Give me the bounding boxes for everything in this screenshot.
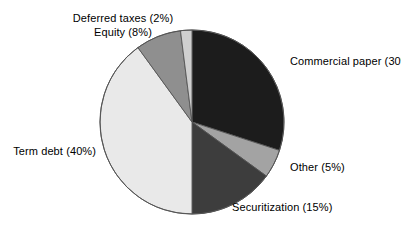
pie-label-commercial-paper: Commercial paper (30%) [290, 55, 401, 68]
pie-label-deferred-taxes: Deferred taxes (2%) [58, 12, 188, 25]
pie-slice-group [100, 30, 284, 214]
pie-label-securitization: Securitization (15%) [232, 201, 362, 214]
pie-label-equity: Equity (8%) [58, 26, 188, 39]
pie-chart-figure: Deferred taxes (2%) Equity (8%) Commerci… [0, 0, 401, 229]
pie-label-other: Other (5%) [290, 161, 390, 174]
pie-label-term-debt: Term debt (40%) [4, 145, 96, 158]
